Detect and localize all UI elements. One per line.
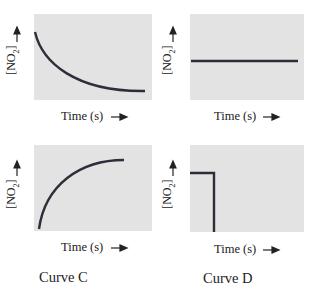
x-label-bottom-left: Time (s) [61,240,103,255]
curve-step-d [190,173,214,232]
y-label-top-left: [NO2] [4,46,20,75]
x-label-bottom-right: Time (s) [214,242,256,257]
x-arrow-icons [111,114,279,253]
curve-rise-c [39,160,124,229]
caption-curve-c: Curve C [39,269,88,286]
x-label-top-left: Time (s) [61,109,103,124]
y-arrow-icons [14,27,176,176]
y-label-bottom-right: [NO2] [160,180,176,209]
y-label-bottom-left: [NO2] [4,180,20,209]
curve-decay [35,32,145,91]
curves-layer [0,0,320,296]
x-label-top-right: Time (s) [214,109,256,124]
y-label-top-right: [NO2] [160,46,176,75]
caption-curve-d: Curve D [203,270,253,287]
